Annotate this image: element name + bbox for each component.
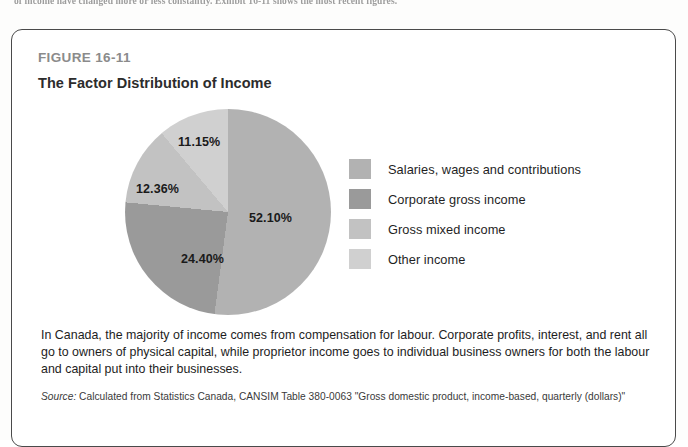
- figure-box: FIGURE 16-11 The Factor Distribution of …: [11, 29, 676, 447]
- figure-source: Source: Calculated from Statistics Canad…: [41, 391, 656, 402]
- pie-slice-label-other: 11.15%: [178, 135, 220, 149]
- legend-label-salaries: Salaries, wages and contributions: [388, 162, 581, 177]
- pie-slice-label-corporate: 24.40%: [181, 252, 224, 266]
- pie-slice-label-salaries: 52.10%: [249, 211, 292, 225]
- legend-item-other: Other income: [349, 244, 649, 274]
- legend-item-mixed: Gross mixed income: [349, 214, 649, 244]
- legend-swatch-icon-corporate: [349, 189, 371, 209]
- pie-chart: 52.10% 24.40% 12.36% 11.15%: [125, 109, 331, 315]
- chart-legend: Salaries, wages and contributions Corpor…: [349, 154, 649, 274]
- legend-label-mixed: Gross mixed income: [388, 222, 506, 237]
- legend-item-corporate: Corporate gross income: [349, 184, 649, 214]
- page-bleed-text: of income have changed more or less cons…: [14, 0, 674, 7]
- legend-swatch-icon-salaries: [349, 159, 371, 179]
- pie-chart-disc: [125, 109, 331, 315]
- figure-number-label: FIGURE 16-11: [38, 50, 131, 65]
- source-prefix: Source:: [41, 391, 76, 402]
- pie-slice-label-mixed: 12.36%: [136, 182, 179, 196]
- figure-caption: In Canada, the majority of income comes …: [41, 327, 652, 379]
- source-body: Calculated from Statistics Canada, CANSI…: [76, 391, 625, 402]
- legend-item-salaries: Salaries, wages and contributions: [349, 154, 649, 184]
- legend-swatch-icon-mixed: [349, 219, 371, 239]
- legend-label-corporate: Corporate gross income: [388, 192, 526, 207]
- figure-title: The Factor Distribution of Income: [38, 75, 272, 91]
- legend-label-other: Other income: [388, 252, 465, 267]
- legend-swatch-icon-other: [349, 249, 371, 269]
